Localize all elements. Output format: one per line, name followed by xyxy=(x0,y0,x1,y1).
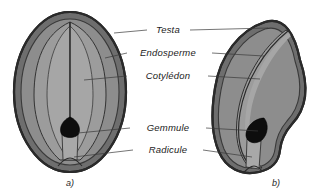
label-endosperme: Endosperme xyxy=(140,47,196,58)
seed-b-radicule xyxy=(246,139,261,169)
label-testa: Testa xyxy=(156,24,180,35)
caption-a: a) xyxy=(66,178,74,188)
label-radicule: Radicule xyxy=(149,144,188,155)
seed-diagram-svg: Testa Endosperme Cotylédon Gemmule Radic… xyxy=(0,0,335,194)
label-cotyledon: Cotylédon xyxy=(146,70,191,81)
caption-b: b) xyxy=(272,178,280,188)
seed-anatomy-figure: Testa Endosperme Cotylédon Gemmule Radic… xyxy=(0,0,335,194)
label-gemmule: Gemmule xyxy=(147,122,190,133)
seed-a-group xyxy=(14,12,126,172)
